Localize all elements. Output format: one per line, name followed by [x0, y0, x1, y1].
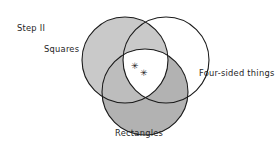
venn-diagram-figure: Step II Squares Four-sided things Rectan… [0, 0, 279, 148]
step-label: Step II [17, 24, 45, 32]
set-label-squares: Squares [44, 45, 79, 53]
asterisk-marker-icon: ✳ [140, 69, 148, 78]
set-label-rectangles: Rectangles [115, 129, 163, 137]
set-label-four-sided-things: Four-sided things [199, 69, 275, 77]
asterisk-marker-icon: ✳ [131, 62, 139, 71]
